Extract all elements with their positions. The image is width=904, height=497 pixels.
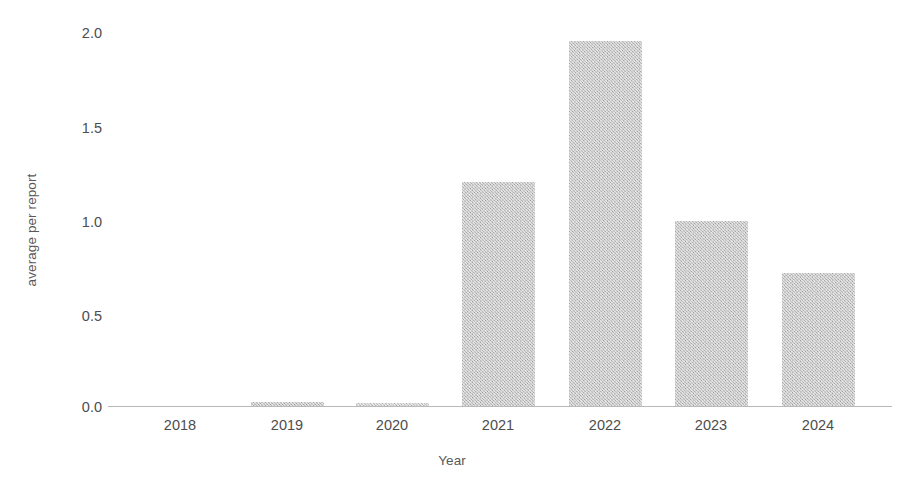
bar-2024	[782, 273, 855, 406]
x-tick-label: 2022	[560, 418, 650, 433]
y-tick-label: 1.0	[56, 215, 102, 230]
x-tick-label: 2019	[242, 418, 332, 433]
x-tick-label: 2021	[453, 418, 543, 433]
plot-area	[108, 20, 890, 410]
bar-2023	[675, 221, 748, 406]
y-tick-label: 0.5	[56, 309, 102, 324]
bar-2022	[569, 41, 642, 406]
y-axis-tick-labels: 0.0 0.5 1.0 1.5 2.0	[52, 0, 102, 497]
x-axis-line	[108, 406, 892, 407]
y-tick-label: 1.5	[56, 121, 102, 136]
bar-2021	[462, 182, 535, 406]
x-tick-label: 2020	[347, 418, 437, 433]
bar-chart: average per report 0.0 0.5 1.0 1.5 2.0 2…	[0, 0, 904, 497]
x-tick-label: 2024	[773, 418, 863, 433]
x-tick-label: 2018	[135, 418, 225, 433]
x-axis-tick-labels: 2018 2019 2020 2021 2022 2023 2024	[108, 418, 890, 440]
x-tick-label: 2023	[666, 418, 756, 433]
y-tick-label: 0.0	[56, 400, 102, 415]
y-tick-label: 2.0	[56, 26, 102, 41]
x-axis-label: Year	[0, 453, 904, 468]
y-axis-label: average per report	[18, 10, 44, 450]
